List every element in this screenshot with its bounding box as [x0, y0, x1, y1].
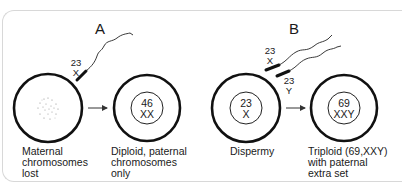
panel-a-egg-caption: Maternal chromosomes lost [22, 146, 88, 179]
panel-a-sperm [77, 33, 133, 80]
panel-b-letter: B [289, 20, 299, 37]
sperm-sex: X [68, 68, 84, 78]
panel-b-result-caption: Triploid (69,XXY) with paternal extra se… [308, 146, 388, 179]
panel-b-egg-caption: Dispermy [230, 146, 274, 157]
lost-chromosomes-dots [37, 97, 58, 119]
sex-chromosome: X [231, 109, 261, 120]
panel-b-sperm-y [277, 46, 341, 76]
panel-b-sperm-x-label: 23 X [262, 46, 278, 65]
sperm-sex: X [262, 56, 278, 66]
panel-b-egg-nucleus: 23 X [231, 98, 261, 119]
panel-a-sperm-label: 23 X [68, 58, 84, 77]
panel-b-result-nucleus: 69 XXY [329, 98, 359, 119]
panel-a-result-nucleus: 46 XX [132, 98, 162, 119]
chromosome-count: 69 [329, 98, 359, 109]
panel-a-result-caption: Diploid, paternal chromosomes only [111, 146, 187, 179]
panel-b-sperm-y-label: 23 Y [281, 76, 297, 95]
panel-a-egg [14, 74, 82, 142]
panel-a-letter: A [95, 20, 105, 37]
sperm-sex: Y [281, 86, 297, 96]
chromosome-count: 46 [132, 98, 162, 109]
chromosome-count: 23 [231, 98, 261, 109]
karyotype: XXY [329, 109, 359, 120]
karyotype: XX [132, 109, 162, 120]
